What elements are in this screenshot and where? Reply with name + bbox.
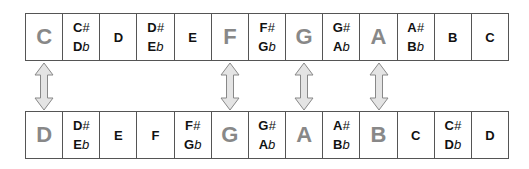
note-label: Db bbox=[73, 37, 90, 56]
bottom-row-cell: A bbox=[286, 112, 323, 158]
note-label: F# bbox=[185, 116, 200, 135]
accidental: # bbox=[157, 20, 164, 35]
top-row-cell: G#Ab bbox=[323, 14, 360, 60]
note-label: G bbox=[296, 24, 313, 50]
top-row-cell: C bbox=[472, 14, 508, 60]
accidental: # bbox=[268, 118, 275, 133]
note-label: Bb bbox=[333, 135, 350, 154]
top-row-cell: F#Gb bbox=[249, 14, 286, 60]
bottom-row-cell: C bbox=[398, 112, 435, 158]
note-label: A# bbox=[333, 116, 350, 135]
note-label: B bbox=[448, 30, 457, 45]
double-arrow-icon bbox=[294, 62, 314, 111]
accidental: b bbox=[454, 137, 461, 152]
top-row-cell: C bbox=[26, 14, 63, 60]
note-label: B bbox=[371, 122, 387, 148]
accidental: b bbox=[268, 137, 275, 152]
accidental: b bbox=[82, 137, 89, 152]
double-arrow-icon bbox=[369, 62, 389, 111]
bottom-row-cell: C#Db bbox=[435, 112, 472, 158]
accidental: b bbox=[342, 137, 349, 152]
accidental: # bbox=[417, 20, 424, 35]
note-label: A# bbox=[407, 18, 424, 37]
note-label: Ab bbox=[333, 37, 350, 56]
note-label: D bbox=[36, 122, 52, 148]
double-arrow-icon bbox=[220, 62, 240, 111]
top-row-cell: C#Db bbox=[63, 14, 100, 60]
accidental: # bbox=[343, 20, 350, 35]
note-label: Bb bbox=[407, 37, 424, 56]
accidental: # bbox=[193, 118, 200, 133]
note-label: Db bbox=[444, 135, 461, 154]
top-row-cell: D#Eb bbox=[137, 14, 174, 60]
note-label: C# bbox=[444, 116, 461, 135]
top-note-row: CC#DbDD#EbEFF#GbGG#AbAA#BbBC bbox=[25, 13, 509, 61]
note-label: D# bbox=[73, 116, 90, 135]
note-label: C bbox=[485, 30, 494, 45]
note-label: A bbox=[296, 122, 312, 148]
accidental: b bbox=[156, 39, 163, 54]
note-label: G# bbox=[258, 116, 275, 135]
bottom-row-cell: D#Eb bbox=[63, 112, 100, 158]
note-label: E bbox=[114, 128, 123, 143]
bottom-row-cell: A#Bb bbox=[323, 112, 360, 158]
note-label: Gb bbox=[258, 37, 275, 56]
double-arrow-icon bbox=[34, 62, 54, 111]
bottom-row-cell: F bbox=[137, 112, 174, 158]
bottom-row-cell: G bbox=[212, 112, 249, 158]
accidental: # bbox=[267, 20, 274, 35]
note-label: D bbox=[485, 128, 494, 143]
top-row-cell: D bbox=[100, 14, 137, 60]
top-row-cell: F bbox=[212, 14, 249, 60]
bottom-note-row: DD#EbEFF#GbGG#AbAA#BbBCC#DbD bbox=[25, 111, 509, 159]
bottom-row-cell: D bbox=[26, 112, 63, 158]
bottom-row-cell: B bbox=[360, 112, 397, 158]
note-label: Gb bbox=[184, 135, 201, 154]
note-label: F bbox=[152, 128, 160, 143]
bottom-row-cell: D bbox=[472, 112, 508, 158]
note-label: G bbox=[221, 122, 238, 148]
top-row-cell: G bbox=[286, 14, 323, 60]
note-label: D# bbox=[147, 18, 164, 37]
note-label: C bbox=[36, 24, 52, 50]
note-label: C# bbox=[73, 18, 90, 37]
accidental: # bbox=[342, 118, 349, 133]
note-label: A bbox=[371, 24, 387, 50]
note-label: D bbox=[114, 30, 123, 45]
note-label: Ab bbox=[259, 135, 276, 154]
accidental: # bbox=[82, 118, 89, 133]
bottom-row-cell: F#Gb bbox=[175, 112, 212, 158]
note-label: Eb bbox=[73, 135, 89, 154]
note-label: C bbox=[411, 128, 420, 143]
accidental: b bbox=[268, 39, 275, 54]
note-label: E bbox=[188, 30, 197, 45]
note-label: F# bbox=[259, 18, 274, 37]
top-row-cell: E bbox=[175, 14, 212, 60]
accidental: b bbox=[194, 137, 201, 152]
top-row-cell: B bbox=[435, 14, 472, 60]
note-label: Eb bbox=[148, 37, 164, 56]
accidental: b bbox=[417, 39, 424, 54]
accidental: b bbox=[342, 39, 349, 54]
accidental: # bbox=[82, 20, 89, 35]
note-label: F bbox=[223, 24, 236, 50]
accidental: # bbox=[454, 118, 461, 133]
top-row-cell: A bbox=[360, 14, 397, 60]
bottom-row-cell: E bbox=[100, 112, 137, 158]
top-row-cell: A#Bb bbox=[398, 14, 435, 60]
accidental: b bbox=[82, 39, 89, 54]
note-label: G# bbox=[333, 18, 350, 37]
bottom-row-cell: G#Ab bbox=[249, 112, 286, 158]
